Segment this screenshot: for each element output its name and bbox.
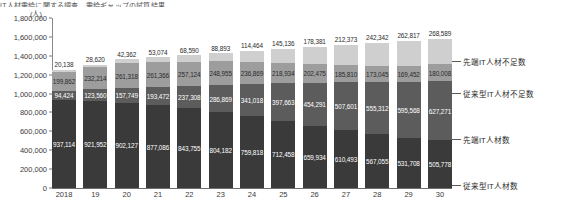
bar-segment[interactable]: 199,862: [52, 72, 76, 91]
bar-segment[interactable]: 341,018: [240, 84, 264, 116]
bar-segment-value-label: 567,055: [366, 158, 388, 165]
bar-segment[interactable]: 257,124: [177, 62, 201, 86]
plot-area: 20,138199,86294,424937,11428,620232,2141…: [52, 18, 452, 188]
bar-segment-value-label: 286,869: [209, 95, 231, 102]
bar-segment[interactable]: 268,589: [428, 39, 452, 64]
bar-segment[interactable]: 236,869: [240, 62, 264, 84]
bar-segment[interactable]: 262,817: [397, 41, 421, 66]
bar-segment-value-label: 341,018: [241, 97, 263, 104]
x-axis-tick-label: 27: [334, 190, 358, 204]
bar-segment[interactable]: 94,424: [52, 91, 76, 100]
x-axis-tick-label: 24: [240, 190, 264, 204]
bar-stack[interactable]: 28,620232,214123,560921,952: [83, 18, 107, 188]
bar-segment-value-label: 193,472: [147, 93, 169, 100]
bar-segment-value-label: 53,074: [149, 49, 168, 56]
legend-item[interactable]: 従来型IT人材不足数: [452, 88, 534, 99]
bar-stack[interactable]: 68,590257,124237,308843,755: [177, 18, 201, 188]
bar-stack[interactable]: 268,589180,008627,271505,778: [428, 18, 452, 188]
bar-segment[interactable]: 659,934: [303, 126, 327, 188]
bar-segment-value-label: 261,318: [115, 72, 137, 79]
bar-segment[interactable]: 261,318: [115, 63, 139, 88]
bar-segment[interactable]: 88,893: [209, 53, 233, 61]
bar-stack[interactable]: 242,342173,045555,312567,055: [365, 18, 389, 188]
bar-stack[interactable]: 114,464236,869341,018759,818: [240, 18, 264, 188]
legend-label: 従来型IT人材数: [463, 180, 518, 191]
bar-segment[interactable]: 202,475: [303, 64, 327, 83]
bar-segment[interactable]: 712,458: [271, 121, 295, 188]
bar-stack[interactable]: 20,138199,86294,424937,114: [52, 18, 76, 188]
bar-segment[interactable]: 180,008: [428, 64, 452, 81]
bar-segment[interactable]: 232,214: [83, 67, 107, 89]
y-axis-tick-label: 1,800,000: [14, 14, 47, 23]
bar-segment[interactable]: 567,055: [365, 134, 389, 188]
bar-segment[interactable]: 555,312: [365, 82, 389, 134]
bar-segment[interactable]: 242,342: [365, 43, 389, 66]
bar-segment-value-label: 242,342: [366, 34, 388, 41]
bar-segment[interactable]: 178,381: [303, 47, 327, 64]
bar-segment[interactable]: 237,308: [177, 86, 201, 108]
y-axis-tick-label: 0: [43, 184, 47, 193]
bar-segment[interactable]: 157,749: [115, 88, 139, 103]
bar-stack[interactable]: 212,373185,810507,601610,493: [334, 18, 358, 188]
bar-segment-value-label: 804,182: [209, 147, 231, 154]
bar-segment-value-label: 94,424: [55, 92, 74, 99]
bar-segment[interactable]: 610,493: [334, 130, 358, 188]
bar-segment[interactable]: 286,869: [209, 85, 233, 112]
legend-item[interactable]: 従来型IT人材数: [452, 180, 518, 191]
bar-segment[interactable]: 595,568: [397, 82, 421, 138]
bar-segment[interactable]: 185,810: [334, 65, 358, 83]
chart-title: IT人材需給に関する調査 需給ギャップの試算結果: [0, 0, 568, 7]
bar-stack[interactable]: 262,817169,452595,568531,708: [397, 18, 421, 188]
x-axis-tick-label: 20: [115, 190, 139, 204]
bar-segment[interactable]: 145,136: [271, 49, 295, 63]
bar-segment-value-label: 157,749: [115, 92, 137, 99]
bar-segment[interactable]: 169,452: [397, 66, 421, 82]
bar-segment-value-label: 877,086: [147, 143, 169, 150]
bar-segment[interactable]: 505,778: [428, 140, 452, 188]
bar-segment-value-label: 199,862: [53, 78, 75, 85]
bar-segment[interactable]: 531,708: [397, 138, 421, 188]
bar-segment-value-label: 454,291: [303, 101, 325, 108]
bar-segment[interactable]: 843,755: [177, 108, 201, 188]
bar-segment[interactable]: 193,472: [146, 87, 170, 105]
bar-segment[interactable]: 123,560: [83, 89, 107, 101]
bar-segment[interactable]: 261,366: [146, 62, 170, 87]
bar-segment-value-label: 262,817: [397, 32, 419, 39]
y-axis: 1,800,0001,600,0001,400,0001,200,0001,00…: [0, 18, 52, 188]
bar-stack[interactable]: 145,136218,934397,663712,458: [271, 18, 295, 188]
bar-stack[interactable]: 178,381202,475454,291659,934: [303, 18, 327, 188]
bar-stack[interactable]: 88,893248,955286,869804,182: [209, 18, 233, 188]
bar-segment[interactable]: 921,952: [83, 101, 107, 188]
bar-segment-value-label: 712,458: [272, 151, 294, 158]
x-axis-tick-label: 25: [271, 190, 295, 204]
bar-segment-value-label: 505,778: [429, 161, 451, 168]
bar-segment[interactable]: 877,086: [146, 105, 170, 188]
x-axis-tick-label: 23: [209, 190, 233, 204]
bar-segment[interactable]: 248,955: [209, 61, 233, 85]
bar-segment[interactable]: 507,601: [334, 82, 358, 130]
legend-item[interactable]: 先端IT人材不足数: [452, 56, 526, 67]
bar-stack[interactable]: 53,074261,366193,472877,086: [146, 18, 170, 188]
bar-segment-value-label: 28,620: [86, 56, 105, 63]
legend-label: 従来型IT人材不足数: [463, 88, 534, 99]
bar-segment[interactable]: 902,127: [115, 103, 139, 188]
bar-stack[interactable]: 42,362261,318157,749902,127: [115, 18, 139, 188]
bar-segment[interactable]: 804,182: [209, 112, 233, 188]
bar-segment[interactable]: 759,818: [240, 116, 264, 188]
bar-segment[interactable]: 454,291: [303, 83, 327, 126]
legend-leader-line: [452, 139, 461, 140]
x-axis-tick-label: 22: [177, 190, 201, 204]
bar-segment[interactable]: 627,271: [428, 81, 452, 140]
bar-segment[interactable]: 937,114: [52, 100, 76, 189]
bar-segment-value-label: 268,589: [429, 30, 451, 37]
legend-item[interactable]: 先端IT人材数: [452, 134, 510, 145]
y-axis-tick-label: 1,200,000: [14, 70, 47, 79]
stacked-bar-chart: IT人材需給に関する調査 需給ギャップの試算結果 (人) 1,800,0001,…: [0, 0, 568, 212]
x-axis: 2018192021222324252627282930: [52, 190, 452, 204]
bar-segment[interactable]: 218,934: [271, 63, 295, 84]
bar-segment[interactable]: 114,464: [240, 51, 264, 62]
bar-segment[interactable]: 397,663: [271, 83, 295, 121]
bar-segment[interactable]: 173,045: [365, 66, 389, 82]
bar-segment[interactable]: 212,373: [334, 45, 358, 65]
bar-segment-value-label: 114,464: [241, 42, 263, 49]
